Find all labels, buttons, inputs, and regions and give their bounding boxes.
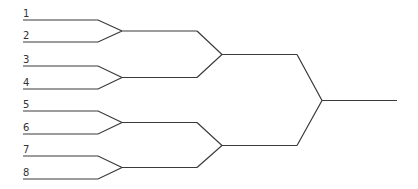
seed-label-8: 8: [23, 168, 29, 178]
final-match: [297, 55, 397, 146]
semifinal-lower: [197, 123, 297, 168]
seed-label-5: 5: [23, 100, 29, 110]
seed-label-6: 6: [23, 123, 29, 133]
seed-label-2: 2: [23, 31, 29, 41]
match-5-6: [23, 111, 197, 134]
semifinal-upper: [197, 31, 297, 78]
seed-label-4: 4: [23, 78, 29, 88]
match-7-8: [23, 156, 197, 179]
match-3-4: [23, 66, 197, 89]
seed-label-1: 1: [23, 9, 29, 19]
bracket-diagram: [0, 0, 418, 189]
seed-label-3: 3: [23, 55, 29, 65]
match-1-2: [23, 20, 197, 42]
seed-label-7: 7: [23, 145, 29, 155]
